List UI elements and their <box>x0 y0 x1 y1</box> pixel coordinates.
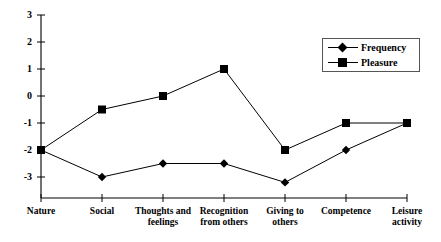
y-tick-label: 0 <box>14 91 32 101</box>
legend-entry-pleasure: Pleasure <box>328 55 397 70</box>
plot-area: 3210-1-2-3 NatureSocialThoughts and feel… <box>0 0 441 242</box>
legend-label-frequency: Frequency <box>361 42 406 53</box>
y-tick-label: 1 <box>14 64 32 74</box>
square-marker-icon <box>328 57 358 69</box>
chart-series <box>37 65 411 187</box>
y-tick-label: 2 <box>14 37 32 47</box>
legend-label-pleasure: Pleasure <box>361 57 397 68</box>
x-tick-label: Giving to others <box>250 206 320 228</box>
chart-legend: Frequency Pleasure <box>322 38 420 72</box>
x-tick-label: Nature <box>6 206 76 217</box>
y-tick-label: -1 <box>14 118 32 128</box>
y-tick-label: -3 <box>14 172 32 182</box>
x-tick-label: Social <box>67 206 137 217</box>
x-tick-label: Leisure activity <box>372 206 441 228</box>
legend-entry-frequency: Frequency <box>328 40 406 55</box>
x-tick-label: Thoughts and feelings <box>128 206 198 228</box>
x-tick-label: Competence <box>311 206 381 217</box>
y-tick-label: -2 <box>14 145 32 155</box>
diamond-marker-icon <box>328 42 358 54</box>
y-tick-label: 3 <box>14 10 32 20</box>
line-chart: 3210-1-2-3 NatureSocialThoughts and feel… <box>0 0 441 242</box>
x-tick-label: Recognition from others <box>189 206 259 228</box>
